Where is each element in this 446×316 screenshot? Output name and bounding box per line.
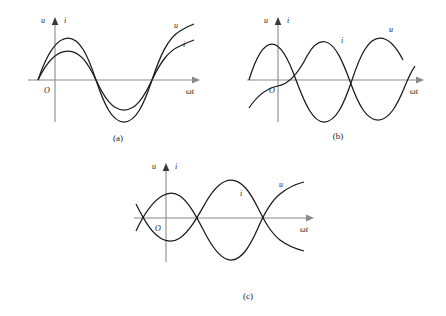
y-axis-b (275, 17, 282, 122)
y-axis-label-i-a: i (64, 16, 66, 25)
y-axis-label-i-b: i (287, 16, 289, 25)
x-axis-label-b: ωt (410, 87, 419, 96)
caption-c: (c) (228, 291, 268, 301)
curve-label-i-b: i (341, 36, 343, 45)
origin-label-c: O (155, 224, 161, 233)
x-axis-a (28, 77, 200, 84)
plot-c: u i ωt O i u (110, 158, 340, 316)
y-axis-a (52, 17, 59, 122)
y-axis-label-u-c: u (152, 162, 156, 171)
origin-label-a: O (44, 86, 50, 95)
y-axis-label-u-b: u (264, 16, 268, 25)
y-axis-label-u-a: u (41, 16, 45, 25)
curve-label-u-c: u (279, 180, 283, 189)
curve-u-c (136, 180, 304, 251)
curve-i-a (38, 40, 194, 110)
x-axis-b (247, 77, 424, 84)
caption-b: (b) (318, 131, 358, 141)
x-axis-c (134, 215, 314, 222)
origin-label-b: O (269, 86, 275, 95)
curve-label-i-c: i (240, 189, 242, 198)
y-axis-c (163, 163, 170, 262)
x-axis-label-a: ωt (186, 87, 195, 96)
subfigure-c: u i ωt O i u (110, 158, 340, 316)
curve-label-i-a: i (183, 40, 185, 49)
curve-label-u-a: u (174, 21, 178, 30)
x-axis-label-c: ωt (300, 225, 309, 234)
caption-a: (a) (98, 133, 138, 143)
curve-label-u-b: u (389, 25, 393, 34)
curve-i-c (136, 182, 304, 260)
curve-i-b (249, 42, 415, 120)
y-axis-label-i-c: i (175, 162, 177, 171)
